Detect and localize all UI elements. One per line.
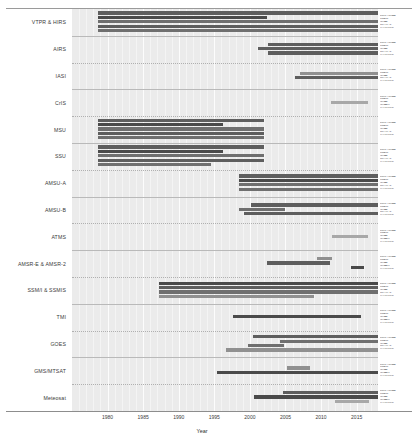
timeline-bar [254,395,378,398]
timeline-bar [159,282,378,285]
row-label-ssu: SSU [0,153,66,159]
row-label-amsu-a: AMSU-A [0,180,66,186]
row-separator [72,331,378,332]
row-label-tmi: TMI [0,314,66,320]
gridline-minor [100,9,101,411]
timeline-bar [98,119,265,122]
x-tick-2010: 2010 [316,414,327,420]
right-labels-group: DMSP/NOAAJMA-MNOAANOAA-JOTHER/Eur [380,364,418,378]
row-label-cris: CrIS [0,100,66,106]
right-labels-group: DMSP/NOAAJMA-MNOAAMETOP-2OTHER/Eur [380,15,418,29]
timeline-bar [280,340,378,343]
row-separator [72,143,378,144]
row-label-gms-mtsat: GMS/MTSAT [0,368,66,374]
row-label-airs: AIRS [0,46,66,52]
right-label-item: OTHER/Eur [380,161,418,164]
row-separator [72,277,378,278]
row-separator [72,36,378,37]
right-labels-group: DMSP/NOAAJMA-MNOAAMETOP-2OTHER/Eur [380,122,418,136]
right-label-item: OTHER/Eur [380,134,418,137]
x-tick-2015: 2015 [351,414,362,420]
timeline-bar [98,159,265,162]
right-label-item: OTHER/Eur [380,402,418,405]
timeline-bar [98,163,212,166]
x-tick-2000: 2000 [244,414,255,420]
right-labels-group: DMSP/NOAAJMA-MNOAANOAA-JOTHER/Eur [380,96,418,110]
timeline-bar [332,235,368,238]
right-label-item: OTHER/Eur [380,188,418,191]
timeline-bar [98,150,223,153]
timeline-bar [239,188,378,191]
timeline-bar [268,43,378,46]
timeline-bar [159,286,378,289]
timeline-bar [267,261,330,264]
timeline-bar [268,51,378,54]
row-separator [72,304,378,305]
right-labels-group: DMSP/NOAAJMA-MNOAAMETOP-2OTHER/Eur [380,337,418,351]
timeline-bar [239,183,378,186]
row-label-atms: ATMS [0,234,66,240]
timeline-bar [98,132,265,135]
row-separator [72,116,378,117]
x-tick-1990: 1990 [173,414,184,420]
gridline-minor [172,9,173,411]
timeline-bar [248,344,284,347]
timeline-bar [98,20,378,23]
x-axis-line [6,411,412,412]
right-labels-group: DMSP/NOAAJMA-MNOAANOAA-JOTHER/Eur [380,310,418,324]
timeline-bar [295,76,378,79]
row-separator [72,197,378,198]
right-label-item: OTHER/Eur [380,348,418,351]
timeline-bar [217,371,378,374]
timeline-bar [98,127,265,130]
timeline-bar [335,400,369,403]
timeline-bar [98,136,265,139]
right-label-item: OTHER/Eur [380,80,418,83]
right-label-item: OTHER/Eur [380,214,418,217]
gridline-minor [157,9,158,411]
timeline-bar [253,335,378,338]
right-label-item: OTHER/Eur [380,107,418,110]
gridline-minor [193,9,194,411]
gridline-minor [221,9,222,411]
timeline-bar [98,25,378,28]
row-label-amsr-e-amsr-2: AMSR-E & AMSR-2 [0,261,66,267]
timeline-bar [98,154,265,157]
timeline-bar [251,203,378,206]
row-separator [72,223,378,224]
timeline-bar [233,315,361,318]
row-separator [72,89,378,90]
row-label-vtpr-hirs: VTPR & HIRS [0,19,66,25]
right-labels-group: DMSP/NOAAJMA-MNOAAMETOP-2OTHER/Eur [380,69,418,83]
x-axis-label: Year [0,428,418,434]
gridline-major [179,9,180,411]
chart-area: VTPR & HIRSAIRSIASICrISMSUSSUAMSU-AAMSU-… [0,9,418,411]
right-labels-group: DMSP/NOAAJMA-MNOAANOAA-JOTHER/Eur [380,230,418,244]
gridline-minor [186,9,187,411]
timeline-bar [239,208,286,211]
timeline-bar [287,366,310,369]
right-labels-group: DMSP/NOAAJMA-MNOAAMETOP-2OTHER/Eur [380,176,418,190]
gridline-minor [93,9,94,411]
right-label-item: OTHER/Eur [380,322,418,325]
gridline-minor [79,9,80,411]
gridline-major [108,9,109,411]
row-label-iasi: IASI [0,73,66,79]
timeline-bar [317,257,333,260]
gridline-minor [165,9,166,411]
timeline-bar [159,295,314,298]
row-label-amsu-b: AMSU-B [0,207,66,213]
row-label-msu: MSU [0,127,66,133]
gridline-minor [122,9,123,411]
timeline-bar [98,11,378,14]
timeline-bar [300,72,378,75]
right-labels-group: DMSP/NOAAJMA-MNOAANOAA-JOTHER/Eur [380,390,418,404]
timeline-bar [331,101,368,104]
right-labels-group: DMSP/NOAAJMA-MNOAAMETOP-2OTHER/Eur [380,283,418,297]
x-tick-1980: 1980 [102,414,113,420]
right-label-item: OTHER/Eur [380,268,418,271]
timeline-bar [98,29,378,32]
timeline-chart-figure: VTPR & HIRSAIRSIASICrISMSUSSUAMSU-AAMSU-… [0,0,418,445]
timeline-bar [283,391,378,394]
timeline-bar [159,290,378,293]
